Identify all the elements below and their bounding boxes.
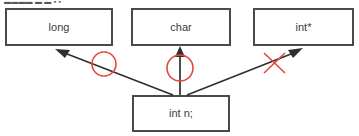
- diagram-canvas: [0, 0, 359, 136]
- arrow-int-to-char: [175, 46, 185, 95]
- annotation-circle-allowed-long: [92, 52, 116, 76]
- arrow-int-to-int-pointer: [187, 48, 303, 95]
- arrow-int-to-long: [55, 49, 173, 95]
